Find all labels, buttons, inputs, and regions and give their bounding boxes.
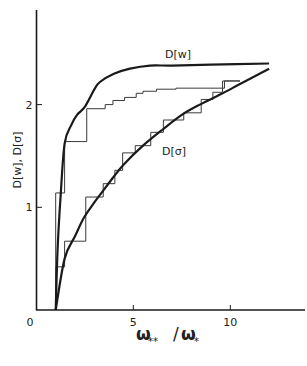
d-staircase-series — [56, 81, 240, 310]
x-title-sub-2: * — [194, 336, 199, 347]
x-title-separator: / — [173, 324, 179, 344]
curves — [56, 64, 269, 310]
x-tick-label: 10 — [223, 316, 237, 329]
chart-figure: 051012 D[w] D[σ] D[w], D[σ] ω ** / ω * — [0, 0, 307, 366]
x-title-sub-1: ** — [148, 336, 158, 347]
labels: D[w] D[σ] D[w], D[σ] ω ** / ω * — [11, 48, 199, 347]
d-w-series — [56, 64, 269, 310]
x-tick-label: 0 — [27, 316, 34, 329]
curve-label-dsigma: D[σ] — [162, 145, 186, 158]
staircases — [56, 81, 240, 310]
x-axis-title: ω ** / ω * — [136, 324, 199, 347]
d-series — [56, 69, 269, 310]
y-axis-title: D[w], D[σ] — [11, 131, 24, 188]
y-tick-label: 2 — [26, 99, 33, 112]
d-w-staircase-series — [56, 81, 240, 310]
y-tick-label: 1 — [26, 201, 33, 214]
curve-label-dw: D[w] — [165, 48, 191, 61]
